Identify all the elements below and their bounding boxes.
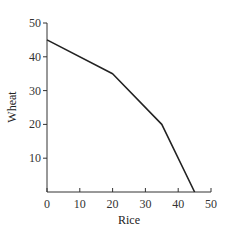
x-tick-label: 20 xyxy=(107,197,119,211)
y-tick-label: 40 xyxy=(29,50,41,64)
axes xyxy=(47,23,211,192)
ppf-line xyxy=(47,40,195,192)
y-tick-label: 50 xyxy=(29,16,41,30)
x-tick-label: 50 xyxy=(205,197,217,211)
data-series xyxy=(47,40,195,192)
x-tick-label: 0 xyxy=(44,197,50,211)
y-axis-label: Wheat xyxy=(5,91,19,123)
x-tick-label: 10 xyxy=(74,197,86,211)
y-tick-label: 10 xyxy=(29,151,41,165)
ppf-chart: 01020304050 1020304050 Rice Wheat xyxy=(0,0,228,236)
x-tick-label: 30 xyxy=(139,197,151,211)
y-tick-label: 20 xyxy=(29,117,41,131)
x-axis-label: Rice xyxy=(118,213,140,227)
x-tick-label: 40 xyxy=(172,197,184,211)
y-axis-ticks: 1020304050 xyxy=(29,16,47,165)
y-tick-label: 30 xyxy=(29,84,41,98)
x-axis-ticks: 01020304050 xyxy=(44,188,217,211)
